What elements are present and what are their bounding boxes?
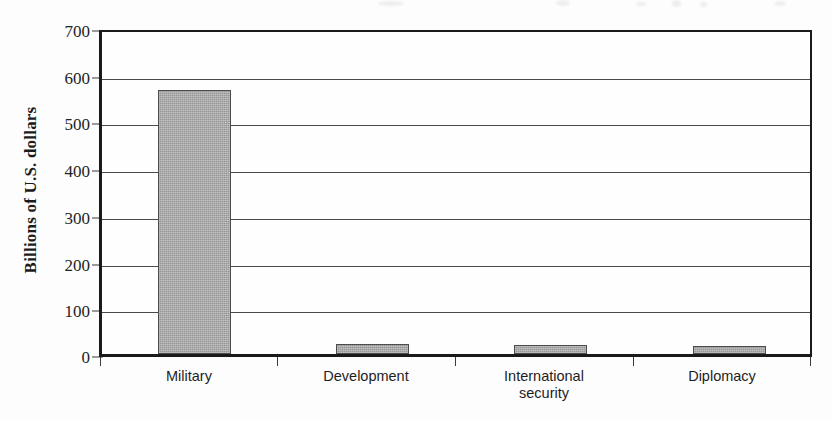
- x-category-label-military: Military: [100, 368, 278, 385]
- x-category-label-international-security-line1: International: [455, 368, 633, 385]
- plot-area: [99, 30, 812, 357]
- y-tick-label-500: 500: [44, 116, 90, 133]
- bar-diplomacy: [693, 346, 766, 354]
- y-tick-label-300: 300: [44, 209, 90, 226]
- scan-artifact: [636, 2, 646, 6]
- bar-chart-figure: Billions of U.S. dollars 700 600 500 400…: [0, 0, 832, 421]
- y-tick-label-600: 600: [44, 69, 90, 86]
- x-category-label-international-security-line2: security: [455, 385, 633, 402]
- bar-military: [158, 90, 231, 355]
- x-category-label-military-line1: Military: [100, 368, 278, 385]
- x-category-label-diplomacy-line1: Diplomacy: [633, 368, 811, 385]
- x-tick-mark-4: [810, 357, 811, 366]
- scan-artifact: [774, 1, 786, 6]
- x-category-label-international-security: International security: [455, 368, 633, 402]
- scan-artifact: [556, 0, 570, 6]
- x-tick-mark-2: [455, 357, 456, 366]
- bar-development: [336, 344, 409, 354]
- x-tick-mark-3: [633, 357, 634, 366]
- y-tick-label-200: 200: [44, 256, 90, 273]
- x-tick-mark-0: [100, 357, 101, 366]
- y-tick-label-400: 400: [44, 163, 90, 180]
- y-tick-label-0: 0: [44, 349, 90, 366]
- x-category-label-development-line1: Development: [277, 368, 455, 385]
- y-tick-label-700: 700: [44, 23, 90, 40]
- y-axis-tick-labels: 700 600 500 400 300 200 100 0: [38, 30, 90, 357]
- y-tick-label-100: 100: [44, 303, 90, 320]
- x-category-label-diplomacy: Diplomacy: [633, 368, 811, 385]
- scan-artifact: [700, 2, 707, 7]
- gridline-600: [102, 79, 810, 80]
- scan-artifact: [378, 1, 404, 6]
- bar-international-security: [514, 345, 587, 354]
- scan-artifact: [672, 0, 681, 7]
- x-category-label-development: Development: [277, 368, 455, 385]
- x-tick-mark-1: [277, 357, 278, 366]
